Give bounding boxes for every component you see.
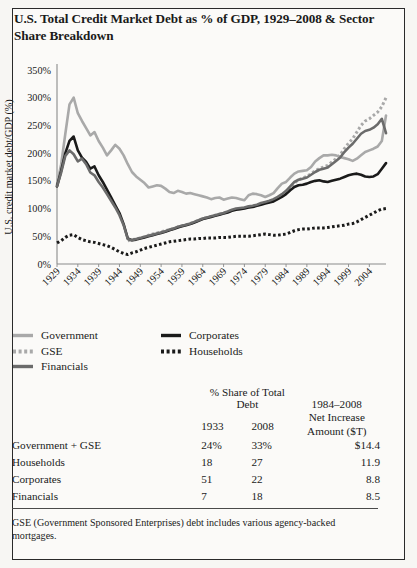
header-year-2008: 2008 [245, 420, 293, 438]
svg-text:1979: 1979 [248, 266, 270, 288]
row-share-2008: 33% [245, 438, 293, 455]
row-net-increase: 8.5 [294, 489, 380, 506]
header-share-of-total-debt: % Share of Total Debt [197, 386, 293, 420]
row-label: Financials [12, 489, 197, 506]
svg-text:1984: 1984 [269, 266, 291, 288]
y-axis-ticks: 0%50%100%150%200%250%300%350% [27, 65, 51, 270]
svg-text:150%: 150% [27, 175, 51, 186]
row-net-increase: 11.9 [294, 455, 380, 472]
footnote-text: GSE (Government Sponsored Enterprises) d… [12, 516, 374, 542]
row-net-increase: $14.4 [294, 438, 380, 455]
svg-text:1994: 1994 [310, 266, 332, 288]
svg-text:1954: 1954 [144, 266, 166, 288]
legend-swatch-corporates-icon [160, 330, 182, 341]
table-row: Households182711.9 [12, 455, 380, 472]
legend-item-financials: Financials [12, 359, 98, 375]
svg-text:1974: 1974 [227, 266, 249, 288]
row-share-2008: 22 [245, 472, 293, 489]
series-line-government [57, 98, 386, 201]
legend-label: GSE [41, 344, 63, 360]
svg-text:1999: 1999 [331, 266, 353, 288]
legend-label: Households [189, 344, 243, 360]
svg-text:250%: 250% [27, 120, 51, 131]
page-title: U.S. Total Credit Market Debt as % of GD… [14, 10, 379, 44]
svg-text:1944: 1944 [102, 266, 124, 288]
svg-text:2004: 2004 [352, 266, 374, 288]
chart-container: U.S. credit market debt/GDP (%) 0%50%100… [0, 56, 390, 318]
header-spacer [12, 386, 197, 420]
legend-column-left: GovernmentGSEFinancials [12, 328, 98, 375]
svg-text:1934: 1934 [61, 266, 83, 288]
table-row: Government + GSE24%33%$14.4 [12, 438, 380, 455]
legend-item-gse: GSE [12, 344, 98, 360]
share-table-container: % Share of Total Debt 1984–2008 Net Incr… [12, 386, 380, 506]
svg-text:1959: 1959 [165, 266, 187, 288]
table-body: Government + GSE24%33%$14.4Households182… [12, 438, 380, 506]
legend-swatch-government-icon [12, 330, 34, 341]
legend-swatch-gse-icon [12, 346, 34, 357]
row-share-2008: 27 [245, 455, 293, 472]
legend-item-corporates: Corporates [160, 328, 243, 344]
svg-text:100%: 100% [27, 203, 51, 214]
legend-item-government: Government [12, 328, 98, 344]
series-line-gse [128, 98, 386, 241]
svg-text:1969: 1969 [206, 266, 228, 288]
chart-axes [57, 64, 386, 264]
header-spacer-2 [12, 420, 197, 438]
header-year-1933: 1933 [197, 420, 245, 438]
row-label: Corporates [12, 472, 197, 489]
svg-text:300%: 300% [27, 92, 51, 103]
row-net-increase: 8.8 [294, 472, 380, 489]
row-share-1933: 7 [197, 489, 245, 506]
svg-text:1949: 1949 [123, 266, 145, 288]
svg-text:0%: 0% [37, 259, 51, 270]
row-share-1933: 18 [197, 455, 245, 472]
chart-series [57, 98, 386, 255]
legend-label: Government [41, 328, 98, 344]
svg-text:U.S. credit market debt/GDP (%: U.S. credit market debt/GDP (%) [3, 99, 15, 234]
legend-swatch-households-icon [160, 346, 182, 357]
y-axis-title: U.S. credit market debt/GDP (%) [3, 99, 15, 234]
line-chart: U.S. credit market debt/GDP (%) 0%50%100… [0, 56, 390, 318]
svg-text:350%: 350% [27, 65, 51, 76]
row-label: Households [12, 455, 197, 472]
svg-text:1964: 1964 [185, 266, 207, 288]
share-table: % Share of Total Debt 1984–2008 Net Incr… [12, 386, 380, 506]
legend-label: Financials [41, 359, 88, 375]
legend-item-households: Households [160, 344, 243, 360]
legend-column-right: CorporatesHouseholds [160, 328, 243, 359]
footnote-divider [12, 508, 378, 509]
legend-swatch-financials-icon [12, 361, 34, 372]
header-net-increase: 1984–2008 Net Increase Amount ($T) [294, 386, 380, 438]
row-share-1933: 51 [197, 472, 245, 489]
svg-text:200%: 200% [27, 148, 51, 159]
row-share-1933: 24% [197, 438, 245, 455]
svg-text:1989: 1989 [290, 266, 312, 288]
x-axis-ticks: 1929193419391944194919541959196419691974… [40, 264, 375, 288]
row-label: Government + GSE [12, 438, 197, 455]
legend-label: Corporates [189, 328, 239, 344]
table-row: Financials7188.5 [12, 489, 380, 506]
table-row: Corporates51228.8 [12, 472, 380, 489]
svg-text:1939: 1939 [81, 266, 103, 288]
row-share-2008: 18 [245, 489, 293, 506]
series-line-households [57, 209, 386, 255]
table-header-row-group: % Share of Total Debt 1984–2008 Net Incr… [12, 386, 380, 420]
figure-page: U.S. Total Credit Market Debt as % of GD… [0, 0, 417, 568]
svg-text:50%: 50% [32, 231, 51, 242]
